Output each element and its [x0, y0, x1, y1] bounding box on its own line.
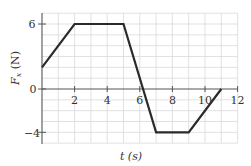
- y-tick-label-0: 0: [30, 83, 37, 96]
- x-tick-label-12: 12: [231, 94, 245, 107]
- x-tick-label-10: 10: [198, 94, 212, 107]
- y-tick-label-6: 6: [29, 18, 36, 31]
- x-tick-label-6: 6: [136, 94, 143, 107]
- x-tick-label-4: 4: [104, 94, 111, 107]
- y-tick-label-neg4: −4: [24, 127, 40, 140]
- y-axis-label-main: F: [9, 77, 22, 86]
- x-tick-label-2: 2: [71, 94, 78, 107]
- force-time-chart: 6 0 −4 2 4 6 8 10 12 t (s) Fx (N): [0, 0, 251, 166]
- y-axis-label-unit: (N): [9, 51, 22, 73]
- y-axis-label: Fx (N): [9, 51, 23, 86]
- x-tick-label-8: 8: [169, 94, 176, 107]
- x-axis-label: t (s): [120, 150, 142, 163]
